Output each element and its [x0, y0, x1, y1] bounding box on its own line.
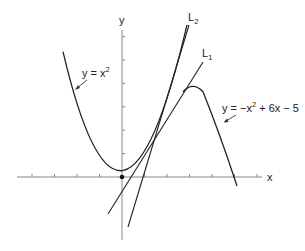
label-y-equals-x-squared: y = x2	[82, 65, 110, 79]
label-L2: L2	[188, 11, 198, 26]
arrow-icon	[224, 115, 237, 123]
label-L1: L1	[202, 47, 212, 62]
arrow-icon	[75, 80, 87, 90]
label-parabola-downward: y = −x2 + 6x − 5	[222, 100, 299, 114]
origin-point	[120, 175, 125, 180]
parabola-y-equals-x-squared	[63, 25, 187, 171]
line-L2	[128, 25, 189, 227]
x-axis-label: x	[267, 171, 273, 183]
graph-figure: x y L2 L1 y = x2 y = −x2 + 6x − 5	[0, 0, 305, 251]
y-axis-label: y	[119, 14, 125, 26]
